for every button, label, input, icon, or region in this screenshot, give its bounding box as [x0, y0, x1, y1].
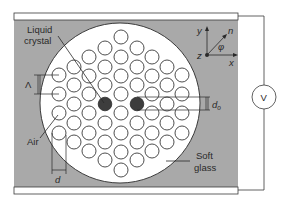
air-hole [67, 97, 81, 111]
air-hole [130, 78, 144, 92]
axis-phi-label: φ [218, 41, 224, 52]
air-hole [98, 135, 112, 149]
air-hole [114, 106, 128, 120]
air-hole [114, 163, 128, 177]
air-hole [160, 135, 174, 149]
air-hole [114, 69, 128, 83]
circuit-wire-bottom [238, 109, 264, 190]
air-hole [160, 97, 174, 111]
liquid-crystal-hole-right [130, 97, 144, 111]
air-hole [67, 78, 81, 92]
liquid-crystal-hole-left [98, 97, 112, 111]
soft-glass-label-2: glass [194, 162, 216, 173]
air-hole [82, 106, 96, 120]
air-hole [52, 126, 66, 140]
air-hole [98, 116, 112, 130]
air-hole [175, 106, 189, 120]
air-hole [145, 69, 159, 83]
air-hole [175, 126, 189, 140]
air-hole [82, 50, 96, 64]
air-label: Air [27, 136, 39, 147]
air-hole [145, 144, 159, 158]
air-hole [160, 116, 174, 130]
liquid-crystal-label-2: crystal [24, 35, 51, 46]
air-hole [130, 116, 144, 130]
air-hole [130, 135, 144, 149]
air-hole [114, 87, 128, 101]
circuit-wire [238, 16, 264, 85]
air-hole [114, 145, 128, 159]
air-hole [67, 116, 81, 130]
air-hole [114, 126, 128, 140]
axis-n-label: n [228, 25, 233, 36]
air-hole [82, 87, 96, 101]
air-hole [175, 87, 189, 101]
d-label: d [55, 174, 61, 185]
air-hole [160, 60, 174, 74]
pcf-diagram: Liquid crystal Λ Air d do Soft glass [0, 0, 291, 204]
axis-z-label: z [196, 50, 202, 61]
air-hole [130, 60, 144, 74]
air-hole [52, 106, 66, 120]
air-hole [98, 153, 112, 167]
air-hole [130, 41, 144, 55]
air-hole [98, 78, 112, 92]
air-hole [114, 30, 128, 44]
air-hole [82, 144, 96, 158]
bottom-electrode [14, 187, 238, 194]
air-hole [145, 87, 159, 101]
air-hole [82, 126, 96, 140]
air-hole [145, 106, 159, 120]
air-hole [67, 135, 81, 149]
air-hole [114, 50, 128, 64]
air-hole [160, 78, 174, 92]
air-hole [98, 41, 112, 55]
voltage-label: V [261, 92, 268, 103]
liquid-crystal-label-1: Liquid [27, 24, 52, 35]
top-electrode [14, 13, 238, 20]
air-hole [130, 153, 144, 167]
air-hole [175, 68, 189, 82]
air-hole [145, 126, 159, 140]
soft-glass-label-1: Soft [196, 150, 213, 161]
air-hole [145, 50, 159, 64]
air-hole [98, 60, 112, 74]
pitch-label: Λ [25, 79, 32, 90]
